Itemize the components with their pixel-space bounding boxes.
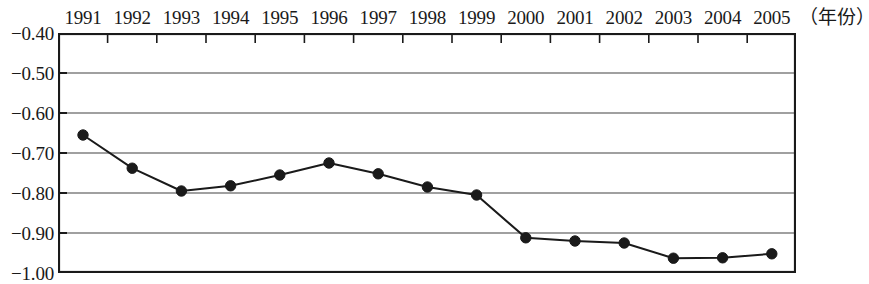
x-tick-label-1999: 1999 <box>451 6 503 30</box>
data-point-1994 <box>225 181 235 191</box>
data-point-1995 <box>275 170 285 180</box>
y-tick-label-4: −0.80 <box>0 184 54 203</box>
y-tick-label-1: −0.50 <box>0 64 54 83</box>
data-point-1999 <box>471 190 481 200</box>
data-point-1992 <box>127 163 137 173</box>
data-point-1991 <box>78 130 88 140</box>
plot-area <box>58 33 796 273</box>
data-point-2003 <box>668 253 678 263</box>
data-point-2001 <box>570 236 580 246</box>
x-tick-label-1991: 1991 <box>57 6 109 30</box>
x-tick-label-1994: 1994 <box>205 6 257 30</box>
y-tick-label-0: −0.40 <box>0 24 54 43</box>
x-tick-label-2005: 2005 <box>746 6 798 30</box>
x-tick-label-1996: 1996 <box>303 6 355 30</box>
x-tick-label-1995: 1995 <box>254 6 306 30</box>
x-tick-label-1992: 1992 <box>106 6 158 30</box>
data-point-2005 <box>767 249 777 259</box>
x-tick-label-2004: 2004 <box>697 6 749 30</box>
x-tick-label-1997: 1997 <box>352 6 404 30</box>
x-tick-label-2002: 2002 <box>598 6 650 30</box>
y-tick-label-2: −0.60 <box>0 104 54 123</box>
data-point-1996 <box>324 158 334 168</box>
plot-svg <box>58 33 796 273</box>
data-point-1998 <box>422 182 432 192</box>
x-axis-year-labels: 1991 1992 1993 1994 1995 1996 1997 1998 … <box>0 6 869 32</box>
x-axis-caption: （年份） <box>799 6 869 30</box>
x-tick-label-2001: 2001 <box>549 6 601 30</box>
y-tick-label-3: −0.70 <box>0 144 54 163</box>
y-tick-label-6: −1.00 <box>0 264 54 283</box>
data-point-1997 <box>373 169 383 179</box>
y-tick-label-5: −0.90 <box>0 224 54 243</box>
x-tick-label-1998: 1998 <box>401 6 453 30</box>
data-point-2004 <box>717 253 727 263</box>
x-tick-label-1993: 1993 <box>155 6 207 30</box>
x-tick-label-2003: 2003 <box>647 6 699 30</box>
data-point-2002 <box>619 238 629 248</box>
data-point-1993 <box>176 186 186 196</box>
x-tick-label-2000: 2000 <box>500 6 552 30</box>
data-point-2000 <box>521 233 531 243</box>
